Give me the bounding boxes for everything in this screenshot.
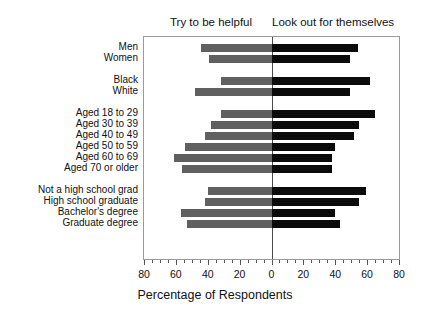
category-label: Aged 70 or older xyxy=(0,163,138,173)
axis-tick-minor xyxy=(311,260,312,263)
axis-tick-minor xyxy=(256,260,257,263)
axis-tick-minor xyxy=(279,260,280,263)
category-label-column: MenWomenBlackWhiteAged 18 to 29Aged 30 t… xyxy=(0,36,138,258)
bar-selfish xyxy=(272,110,376,118)
bar-selfish xyxy=(272,55,350,63)
axis-tick-minor xyxy=(200,260,201,263)
axis-tick-minor xyxy=(375,260,376,263)
axis-tick-minor xyxy=(160,260,161,263)
axis-tick-minor xyxy=(359,260,360,263)
category-label: Aged 40 to 49 xyxy=(0,130,138,140)
category-label: Graduate degree xyxy=(0,218,138,228)
bar-selfish xyxy=(272,154,333,162)
axis-tick-label: 20 xyxy=(298,268,310,280)
bar-helpful xyxy=(181,209,272,217)
axis-tick-minor xyxy=(351,260,352,263)
category-label: Bachelor's degree xyxy=(0,207,138,217)
chart-container: Try to be helpful Look out for themselve… xyxy=(0,0,427,313)
bar-selfish xyxy=(272,77,371,85)
category-label: High school graduate xyxy=(0,196,138,206)
bar-helpful xyxy=(195,88,272,96)
bar-selfish xyxy=(272,209,336,217)
bar-selfish xyxy=(272,198,360,206)
plot-area xyxy=(143,36,400,260)
category-label: Aged 50 to 59 xyxy=(0,141,138,151)
bar-selfish xyxy=(272,88,350,96)
bar-helpful xyxy=(209,55,271,63)
axis-tick-minor xyxy=(184,260,185,263)
category-label: Men xyxy=(0,42,138,52)
axis-tick-label: 40 xyxy=(329,268,341,280)
bar-helpful xyxy=(221,77,272,85)
axis-tick-minor xyxy=(192,260,193,263)
x-axis xyxy=(143,260,400,268)
legend-caption-selfish: Look out for themselves xyxy=(272,16,394,28)
axis-tick-major xyxy=(367,260,368,265)
category-label: Women xyxy=(0,53,138,63)
axis-tick-minor xyxy=(295,260,296,263)
axis-tick-minor xyxy=(343,260,344,263)
bar-helpful xyxy=(205,198,272,206)
axis-tick-major xyxy=(144,260,145,265)
bar-selfish xyxy=(272,132,355,140)
bar-selfish xyxy=(272,187,366,195)
axis-tick-minor xyxy=(224,260,225,263)
axis-tick-label: 40 xyxy=(202,268,214,280)
axis-tick-minor xyxy=(232,260,233,263)
bar-helpful xyxy=(185,143,271,151)
bar-selfish xyxy=(272,121,360,129)
axis-tick-minor xyxy=(264,260,265,263)
bar-selfish xyxy=(272,165,333,173)
axis-tick-major xyxy=(208,260,209,265)
axis-tick-label: 0 xyxy=(269,268,275,280)
bar-helpful xyxy=(221,110,272,118)
bar-helpful xyxy=(205,132,272,140)
category-label: Aged 18 to 29 xyxy=(0,108,138,118)
axis-tick-major xyxy=(399,260,400,265)
axis-tick-minor xyxy=(391,260,392,263)
x-axis-title: Percentage of Respondents xyxy=(30,288,400,302)
bar-helpful xyxy=(174,154,271,162)
axis-tick-minor xyxy=(168,260,169,263)
bar-helpful xyxy=(208,187,272,195)
axis-tick-minor xyxy=(216,260,217,263)
axis-tick-minor xyxy=(287,260,288,263)
bar-selfish xyxy=(272,44,358,52)
category-label: White xyxy=(0,86,138,96)
axis-tick-major xyxy=(303,260,304,265)
bar-selfish xyxy=(272,220,341,228)
axis-tick-minor xyxy=(327,260,328,263)
axis-tick-major xyxy=(240,260,241,265)
axis-tick-major xyxy=(335,260,336,265)
bar-helpful xyxy=(182,165,271,173)
axis-tick-label: 60 xyxy=(361,268,373,280)
axis-tick-minor xyxy=(248,260,249,263)
axis-tick-minor xyxy=(383,260,384,263)
axis-tick-major xyxy=(176,260,177,265)
category-label: Aged 30 to 39 xyxy=(0,119,138,129)
axis-tick-label: 20 xyxy=(234,268,246,280)
category-label: Not a high school grad xyxy=(0,185,138,195)
axis-tick-minor xyxy=(319,260,320,263)
bar-helpful xyxy=(187,220,271,228)
axis-tick-minor xyxy=(152,260,153,263)
axis-tick-label: 60 xyxy=(170,268,182,280)
bar-helpful xyxy=(211,121,272,129)
bar-selfish xyxy=(272,143,336,151)
axis-tick-major xyxy=(272,260,273,265)
axis-tick-label: 80 xyxy=(138,268,150,280)
category-label: Black xyxy=(0,75,138,85)
axis-tick-label: 80 xyxy=(393,268,405,280)
legend-caption-helpful: Try to be helpful xyxy=(170,16,252,28)
bar-helpful xyxy=(201,44,271,52)
category-label: Aged 60 to 69 xyxy=(0,152,138,162)
